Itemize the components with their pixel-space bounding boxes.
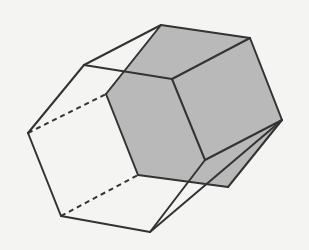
outer-edge-h-i [28, 133, 61, 216]
hexagonal-prism-diagram [0, 0, 309, 250]
outer-edge-i-j [61, 216, 150, 232]
outer-edge-g-h [28, 65, 84, 133]
hidden-edge-h-f [28, 94, 106, 133]
hidden-edge-i-e [61, 175, 138, 216]
